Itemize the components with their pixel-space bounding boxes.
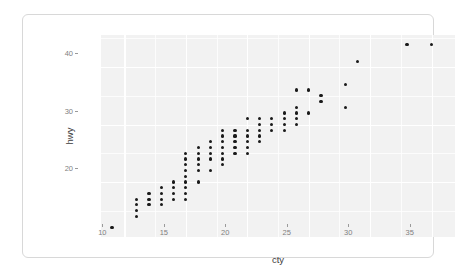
data-point (221, 152, 224, 155)
gridline-minor-horizontal (101, 38, 455, 39)
data-point (197, 169, 200, 172)
data-point (246, 129, 249, 132)
data-point (258, 134, 261, 137)
data-point (221, 134, 224, 137)
x-tick-mark (164, 224, 165, 227)
data-point (209, 157, 212, 160)
gridline-major-vertical (186, 35, 187, 237)
data-point (160, 192, 163, 195)
y-tick-label: 20 (57, 163, 73, 172)
gridline-major-horizontal (101, 125, 455, 126)
data-point (221, 140, 224, 143)
data-point (246, 146, 249, 149)
data-point (319, 94, 322, 97)
data-point (233, 134, 236, 137)
x-tick-mark (287, 224, 288, 227)
x-tick-label: 20 (221, 228, 229, 237)
data-point (209, 140, 212, 143)
data-point (344, 83, 347, 86)
data-point (233, 152, 236, 155)
x-tick-label: 30 (344, 228, 352, 237)
data-point (221, 129, 224, 132)
data-point (160, 198, 163, 201)
y-tick-label: 40 (57, 49, 73, 58)
x-tick-mark (348, 224, 349, 227)
gridline-minor-horizontal (101, 96, 455, 97)
x-tick-mark (102, 224, 103, 227)
y-tick-label: 30 (57, 106, 73, 115)
data-point (283, 111, 286, 114)
data-point (270, 117, 273, 120)
data-point (270, 129, 273, 132)
data-point (405, 43, 408, 46)
gridline-minor-vertical (401, 35, 402, 237)
data-point (197, 152, 200, 155)
x-tick-label: 15 (160, 228, 168, 237)
data-point (209, 152, 212, 155)
y-tick-mark (75, 168, 78, 169)
x-axis-title: cty (101, 254, 455, 265)
data-point (147, 192, 150, 195)
data-point (356, 60, 359, 63)
data-point (283, 123, 286, 126)
data-point (295, 106, 298, 109)
data-point (295, 88, 298, 91)
gridline-minor-vertical (339, 35, 340, 237)
data-point (160, 186, 163, 189)
data-point (197, 180, 200, 183)
gridline-minor-vertical (217, 35, 218, 237)
gridline-major-vertical (432, 35, 433, 237)
data-point (197, 163, 200, 166)
data-point (307, 88, 310, 91)
data-point (295, 117, 298, 120)
gridline-major-horizontal (101, 182, 455, 183)
data-point (172, 192, 175, 195)
y-tick-mark (75, 111, 78, 112)
x-tick-label: 25 (283, 228, 291, 237)
data-point (258, 117, 261, 120)
data-point (197, 146, 200, 149)
y-axis-title: hwy (64, 128, 75, 145)
data-point (110, 226, 113, 229)
data-point (258, 129, 261, 132)
data-point (135, 198, 138, 201)
data-point (295, 111, 298, 114)
data-point (135, 209, 138, 212)
data-point (172, 180, 175, 183)
data-point (135, 203, 138, 206)
data-point (307, 111, 310, 114)
data-point (135, 215, 138, 218)
gridline-major-vertical (370, 35, 371, 237)
data-point (221, 163, 224, 166)
data-point (233, 140, 236, 143)
data-point (172, 186, 175, 189)
data-point (430, 43, 433, 46)
x-tick-label: 35 (405, 228, 413, 237)
data-point (147, 203, 150, 206)
data-point (209, 146, 212, 149)
data-point (197, 157, 200, 160)
data-point (147, 198, 150, 201)
data-point (319, 100, 322, 103)
data-point (246, 134, 249, 137)
y-tick-mark (75, 53, 78, 54)
data-point (172, 198, 175, 201)
data-point (160, 203, 163, 206)
data-point (221, 157, 224, 160)
x-tick-label: 10 (98, 228, 106, 237)
gridline-minor-vertical (155, 35, 156, 237)
data-point (344, 106, 347, 109)
x-tick-mark (410, 224, 411, 227)
data-point (221, 146, 224, 149)
data-point (283, 117, 286, 120)
gridline-minor-vertical (278, 35, 279, 237)
screenshot-root: 101520253035203040 cty hwy (0, 0, 457, 274)
data-point (283, 129, 286, 132)
gridline-major-vertical (124, 35, 125, 237)
plot-card: 101520253035203040 cty hwy (22, 14, 434, 258)
plot-panel (101, 35, 455, 237)
data-point (258, 140, 261, 143)
gridline-major-vertical (309, 35, 310, 237)
data-point (209, 169, 212, 172)
data-point (233, 129, 236, 132)
